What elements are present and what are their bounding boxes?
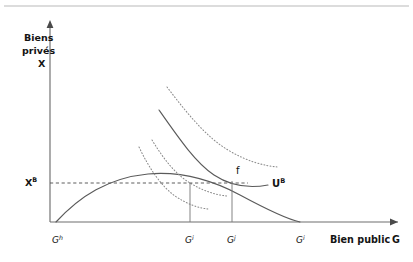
curve-label-ub-base: U	[272, 178, 280, 189]
x-tick-label-gh: Gh	[52, 234, 63, 245]
x-tick-gi-right-sup: i	[303, 234, 305, 241]
curve-label-ub: UB	[272, 177, 285, 189]
x-axis-arrow-icon	[390, 219, 398, 226]
x-tick-gj-base: G	[227, 235, 234, 245]
figure-root: Biens privés X XB Gh Gi Gj Gi Bien publi…	[0, 0, 413, 262]
x-tick-gh-base: G	[52, 235, 59, 245]
x-axis-title-symbol: G	[392, 234, 400, 245]
x-tick-gj-sup: j	[233, 234, 236, 242]
y-value-sup: B	[32, 176, 37, 184]
x-axis-title: Bien public	[330, 234, 390, 245]
economics-diagram-svg: Biens privés X XB Gh Gi Gj Gi Bien publi…	[0, 0, 413, 262]
x-tick-gi-right-base: G	[296, 235, 303, 245]
x-tick-label-gi-right: Gi	[296, 234, 305, 245]
indifference-curve-mid	[152, 140, 227, 196]
y-axis-arrow-icon	[47, 20, 54, 28]
x-tick-gh-sup: h	[59, 234, 63, 241]
x-tick-label-gi: Gi	[185, 234, 194, 245]
x-tick-gi-sup: i	[192, 234, 194, 241]
indifference-curve-high	[167, 87, 278, 167]
y-axis-title-line-1: Biens	[24, 32, 54, 43]
y-axis-title-line-3: X	[38, 58, 46, 69]
utility-curve-ub	[159, 110, 268, 186]
x-tick-label-gj: Gj	[227, 234, 236, 245]
y-value-label-xb: XB	[25, 176, 37, 188]
curve-label-ub-sup: B	[280, 177, 285, 185]
y-axis-title-line-2: privés	[22, 45, 55, 56]
x-tick-gi-base: G	[185, 235, 192, 245]
point-label-f: f	[236, 165, 240, 176]
